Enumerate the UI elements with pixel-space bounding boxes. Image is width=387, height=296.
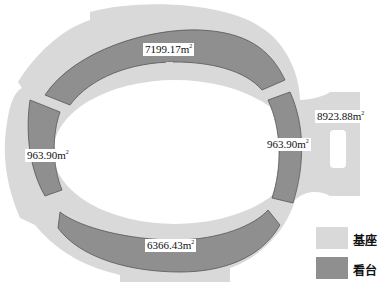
- area-label-west: 963.90m2: [25, 149, 71, 162]
- legend-swatch-base: [316, 227, 348, 249]
- legend-label-stand: 看台: [353, 261, 377, 279]
- area-label-south: 6366.43m2: [145, 239, 196, 252]
- base-east-opening: [330, 130, 346, 168]
- area-label-north: 7199.17m2: [143, 43, 194, 56]
- legend-swatch-stand: [316, 257, 348, 279]
- area-label-east: 963.90m2: [265, 138, 311, 151]
- field-area: [53, 80, 297, 224]
- legend-label-base: 基座: [353, 231, 377, 249]
- north-stand-notch: [166, 62, 173, 70]
- area-label-base-east: 8923.88m2: [315, 110, 366, 123]
- south-stand-notch: [165, 224, 172, 232]
